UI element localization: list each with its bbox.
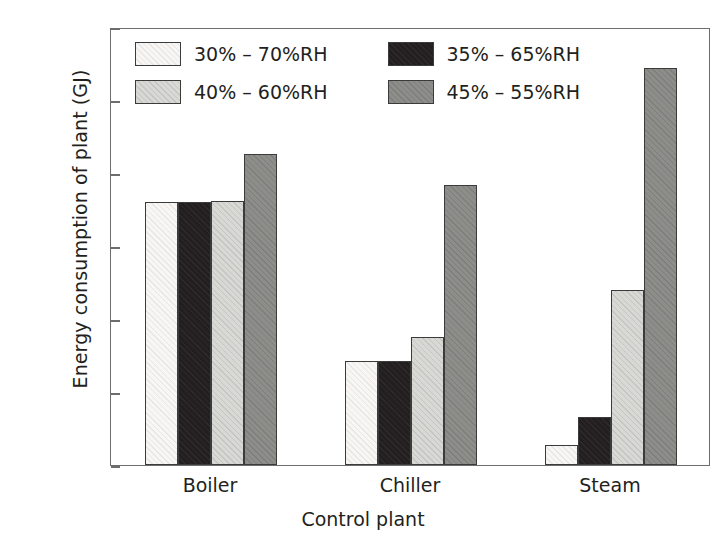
y-axis-tick-mark [111, 466, 120, 468]
y-axis-tick-mark [111, 28, 120, 30]
x-axis-category-label: Boiler [110, 474, 310, 496]
legend: 30% – 70%RH35% – 65%RH40% – 60%RH45% – 5… [135, 42, 565, 104]
x-axis-title: Control plant [0, 508, 726, 530]
y-axis-tick-mark [111, 247, 120, 249]
y-axis-tick-mark [111, 393, 120, 395]
x-axis-category-label: Steam [510, 474, 710, 496]
y-axis-title: Energy consumption of plant (GJ) [69, 0, 91, 459]
legend-swatch-icon [135, 80, 181, 104]
y-axis-tick-mark [111, 174, 120, 176]
bar [378, 361, 411, 465]
legend-item: 30% – 70%RH [135, 42, 328, 66]
legend-label: 45% – 55%RH [447, 81, 581, 103]
bar [578, 417, 611, 465]
y-axis-tick-mark [111, 101, 120, 103]
legend-label: 35% – 65%RH [447, 43, 581, 65]
legend-item: 45% – 55%RH [388, 80, 581, 104]
legend-label: 40% – 60%RH [194, 81, 328, 103]
bar [644, 68, 677, 465]
legend-swatch-icon [135, 42, 181, 66]
x-axis-category-label: Chiller [310, 474, 510, 496]
bar [178, 202, 211, 465]
bar [611, 290, 644, 465]
chart-figure: Energy consumption of plant (GJ) 0510152… [0, 0, 726, 552]
bar [145, 202, 178, 465]
bar [444, 185, 477, 465]
bar [345, 361, 378, 465]
bar [545, 445, 578, 465]
legend-label: 30% – 70%RH [194, 43, 328, 65]
bar [411, 337, 444, 465]
bar [211, 201, 244, 465]
y-axis-tick-mark [111, 320, 120, 322]
legend-swatch-icon [388, 80, 434, 104]
legend-item: 35% – 65%RH [388, 42, 581, 66]
legend-swatch-icon [388, 42, 434, 66]
bar [244, 154, 277, 465]
legend-item: 40% – 60%RH [135, 80, 328, 104]
